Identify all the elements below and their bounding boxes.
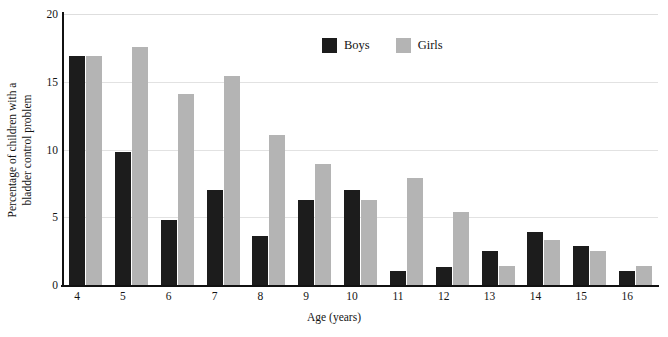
bar-girls-age-15 <box>590 251 606 285</box>
bar-boys-age-4 <box>69 56 85 285</box>
bar-boys-age-12 <box>436 267 452 285</box>
bar-group-age-7 <box>204 14 250 285</box>
bar-girls-age-7 <box>224 76 240 285</box>
legend-label-girls: Girls <box>418 38 443 53</box>
x-tick-label-12: 12 <box>424 290 464 302</box>
bar-girls-age-4 <box>86 56 102 285</box>
bar-group-age-16 <box>616 14 662 285</box>
plot-area <box>62 14 658 285</box>
x-tick-label-6: 6 <box>149 290 189 302</box>
y-tick-label-15: 15 <box>30 76 58 88</box>
bar-boys-age-13 <box>482 251 498 285</box>
bar-girls-age-9 <box>315 164 331 285</box>
y-tick-label-10: 10 <box>30 144 58 156</box>
legend-item-girls: Girls <box>396 38 443 53</box>
legend-label-boys: Boys <box>344 38 370 53</box>
x-tick-label-5: 5 <box>103 290 143 302</box>
x-tick-label-14: 14 <box>515 290 555 302</box>
bar-girls-age-12 <box>453 212 469 285</box>
x-tick-label-16: 16 <box>607 290 647 302</box>
x-tick-label-13: 13 <box>470 290 510 302</box>
x-axis-title: Age (years) <box>0 311 668 323</box>
bar-boys-age-6 <box>161 220 177 285</box>
legend-swatch-boys <box>322 38 337 53</box>
bar-group-age-9 <box>295 14 341 285</box>
bar-group-age-11 <box>387 14 433 285</box>
bar-girls-age-6 <box>178 94 194 285</box>
bar-girls-age-14 <box>544 240 560 285</box>
bar-girls-age-5 <box>132 47 148 285</box>
bar-boys-age-9 <box>298 200 314 285</box>
bar-girls-age-13 <box>499 266 515 285</box>
bar-group-age-14 <box>524 14 570 285</box>
bar-boys-age-7 <box>207 190 223 285</box>
x-axis-line <box>61 285 659 287</box>
x-tick-label-15: 15 <box>561 290 601 302</box>
bar-girls-age-16 <box>636 266 652 285</box>
bar-girls-age-11 <box>407 178 423 285</box>
bar-group-age-4 <box>66 14 112 285</box>
y-axis-title-line-1: Percentage of children with a <box>5 83 20 218</box>
y-axis-tick-labels: 05101520 <box>30 14 58 285</box>
x-tick-label-11: 11 <box>378 290 418 302</box>
legend-swatch-girls <box>396 38 411 53</box>
bar-groups <box>62 14 658 285</box>
bar-boys-age-15 <box>573 246 589 285</box>
bar-group-age-13 <box>479 14 525 285</box>
bar-group-age-8 <box>249 14 295 285</box>
bar-group-age-6 <box>158 14 204 285</box>
bar-boys-age-8 <box>252 236 268 285</box>
x-tick-label-8: 8 <box>240 290 280 302</box>
y-axis-line <box>62 12 64 287</box>
y-tick-label-5: 5 <box>30 211 58 223</box>
bar-group-age-5 <box>112 14 158 285</box>
bar-boys-age-11 <box>390 271 406 285</box>
x-tick-label-10: 10 <box>332 290 372 302</box>
bar-girls-age-8 <box>269 135 285 285</box>
bar-group-age-12 <box>433 14 479 285</box>
x-tick-label-9: 9 <box>286 290 326 302</box>
bar-group-age-10 <box>341 14 387 285</box>
bar-boys-age-5 <box>115 152 131 285</box>
bar-girls-age-10 <box>361 200 377 285</box>
bar-boys-age-16 <box>619 271 635 285</box>
bar-group-age-15 <box>570 14 616 285</box>
legend-item-boys: Boys <box>322 38 370 53</box>
bar-boys-age-10 <box>344 190 360 285</box>
legend: Boys Girls <box>322 38 443 53</box>
x-tick-label-7: 7 <box>195 290 235 302</box>
bar-chart: Percentage of children with a bladder co… <box>0 0 668 337</box>
x-axis-tick-labels: 45678910111213141516 <box>62 290 658 308</box>
y-tick-label-0: 0 <box>30 279 58 291</box>
bar-boys-age-14 <box>527 232 543 285</box>
x-tick-label-4: 4 <box>57 290 97 302</box>
y-tick-label-20: 20 <box>30 8 58 20</box>
